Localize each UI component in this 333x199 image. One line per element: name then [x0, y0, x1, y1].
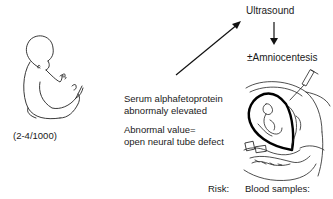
serum-afp-label-line2: abnormaly elevated — [124, 105, 207, 117]
amniocentesis-label: ±Amniocentesis — [247, 52, 318, 64]
abnormal-value-label-line1: Abnormal value= — [124, 124, 196, 136]
blood-samples-label: Blood samples: — [245, 183, 310, 195]
arrow-to-amniocentesis — [270, 22, 278, 45]
abnormal-value-label-line2: open neural tube defect — [124, 136, 224, 148]
risk-label: Risk: — [208, 183, 229, 195]
serum-afp-label-line1: Serum alphafetoprotein — [124, 93, 223, 105]
ultrasound-label: Ultrasound — [246, 5, 294, 17]
arrow-to-ultrasound — [176, 21, 241, 75]
incidence-label: (2-4/1000) — [13, 130, 57, 142]
amniocentesis-illustration — [244, 70, 330, 181]
fetus-illustration — [24, 36, 83, 119]
